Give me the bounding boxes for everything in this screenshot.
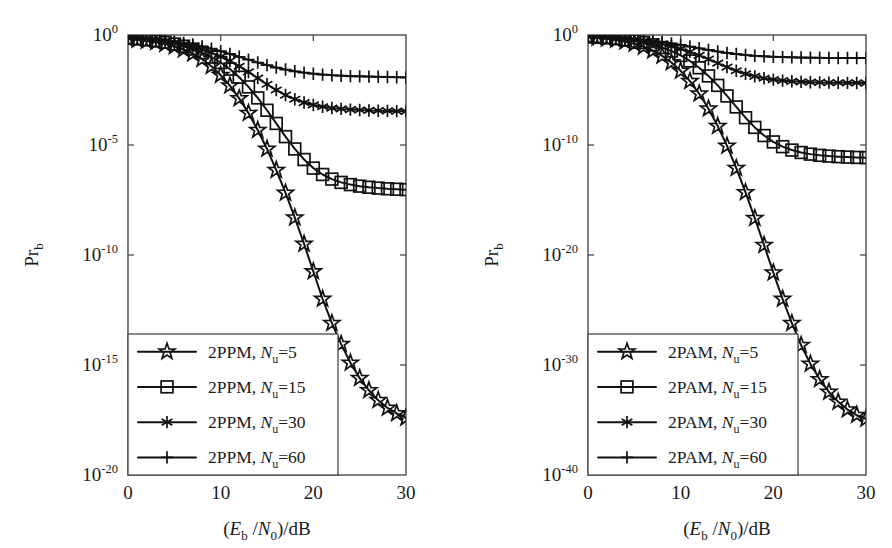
x-tick-label: 10 [671,482,690,503]
x-tick-label: 30 [397,482,416,503]
y-tick-label: 10-40 [542,462,578,485]
y-tick-label: 100 [93,22,118,45]
svg-text:Prb: Prb [481,243,506,266]
y-axis-title: Prb [481,243,506,266]
chart-panel-left: 010203010010-510-1010-1510-20Prb(Eb /N0)… [0,0,446,548]
figure-container: 010203010010-510-1010-1510-20Prb(Eb /N0)… [0,0,892,548]
chart-svg: 010203010010-1010-2010-3010-40Prb(Eb /N0… [446,0,892,548]
x-axis-title: (Eb /N0)/dB [683,518,770,543]
x-tick-label: 10 [211,482,230,503]
y-tick-label: 10-15 [82,352,118,375]
y-tick-label: 100 [553,22,578,45]
x-tick-label: 30 [857,482,876,503]
svg-text:Prb: Prb [21,243,46,266]
y-tick-label: 10-10 [542,132,578,155]
y-tick-label: 10-20 [82,462,118,485]
chart-panel-right: 010203010010-1010-2010-3010-40Prb(Eb /N0… [446,0,892,548]
y-tick-label: 10-5 [89,132,118,155]
y-axis-title: Prb [21,243,46,266]
x-tick-label: 0 [123,482,133,503]
x-axis-title: (Eb /N0)/dB [223,518,310,543]
y-tick-label: 10-20 [542,242,578,265]
y-tick-label: 10-10 [82,242,118,265]
x-tick-label: 20 [764,482,783,503]
x-tick-label: 20 [304,482,323,503]
x-tick-label: 0 [583,482,593,503]
legend: 2PPM, Nu=52PPM, Nu=152PPM, Nu=302PPM, Nu… [128,334,338,475]
y-tick-label: 10-30 [542,352,578,375]
chart-svg: 010203010010-510-1010-1510-20Prb(Eb /N0)… [0,0,446,548]
legend: 2PAM, Nu=52PAM, Nu=152PAM, Nu=302PAM, Nu… [588,334,798,475]
